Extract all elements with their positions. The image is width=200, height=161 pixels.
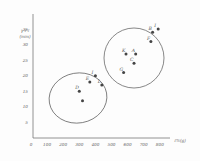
- cluster-boundary: [45, 68, 111, 127]
- point-label: I: [153, 23, 156, 28]
- clusters: DEILKACGFBI: [45, 23, 164, 128]
- point-label: C: [130, 57, 134, 62]
- data-point: [94, 74, 97, 77]
- point-label: B: [148, 26, 153, 31]
- x-tick-label: 0: [30, 142, 33, 147]
- point-label: E: [85, 76, 90, 81]
- point-label: K: [121, 48, 126, 53]
- y-tick-label: 5: [25, 120, 28, 125]
- x-tick-label: 500: [108, 142, 116, 147]
- point-label: G: [120, 67, 124, 72]
- point-label: L: [97, 79, 101, 84]
- x-axis-label: ℓ%(g): [174, 138, 186, 143]
- x-tick-label: 400: [90, 142, 99, 147]
- point-label: D: [74, 85, 79, 90]
- x-tick-label: 600: [124, 142, 132, 147]
- y-axis-unit-label: (mm): [19, 34, 31, 39]
- chart-canvas: 5101520253035 0100200300400500600700800 …: [0, 0, 200, 161]
- y-tick-label: 15: [23, 89, 29, 94]
- scatter-chart: 5101520253035 0100200300400500600700800 …: [0, 0, 200, 161]
- x-tick-label: 100: [43, 142, 51, 147]
- x-tick-label: 800: [156, 142, 164, 147]
- data-point: [157, 28, 160, 31]
- y-tick-label: 20: [22, 73, 29, 78]
- y-tick-label: 25: [22, 58, 29, 63]
- y-axis-label: γ ℓ'ℓ: [21, 28, 30, 33]
- point-label: I: [90, 70, 93, 75]
- cluster-group: DEIL: [45, 68, 111, 127]
- cluster-boundary: [104, 28, 164, 88]
- y-tick-label: 30: [23, 42, 29, 47]
- cluster-group: KACGFBI: [104, 23, 164, 88]
- point-label: A: [131, 48, 136, 53]
- data-point: [81, 99, 84, 102]
- x-tick-label: 700: [140, 142, 148, 147]
- x-tick-label: 300: [75, 142, 83, 147]
- point-label: F: [146, 36, 151, 41]
- x-tick-label: 200: [58, 142, 67, 147]
- x-tick-labels: 0100200300400500600700800: [30, 142, 164, 147]
- y-tick-labels: 5101520253035: [22, 27, 29, 125]
- y-tick-label: 10: [23, 104, 29, 109]
